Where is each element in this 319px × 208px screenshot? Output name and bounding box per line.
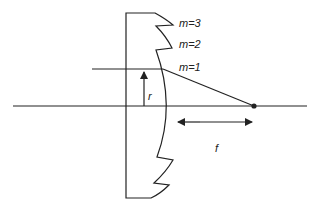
refracted-ray (163, 69, 254, 106)
zone-label-m1: m=1 (179, 61, 201, 73)
focal-length-label: f (215, 142, 219, 154)
focal-point (251, 103, 256, 108)
fresnel-lens-diagram: m=3 m=2 m=1 r f (0, 0, 319, 208)
zone-label-m3: m=3 (179, 17, 202, 29)
zone-label-m2: m=2 (179, 38, 201, 50)
radius-label: r (148, 90, 153, 102)
